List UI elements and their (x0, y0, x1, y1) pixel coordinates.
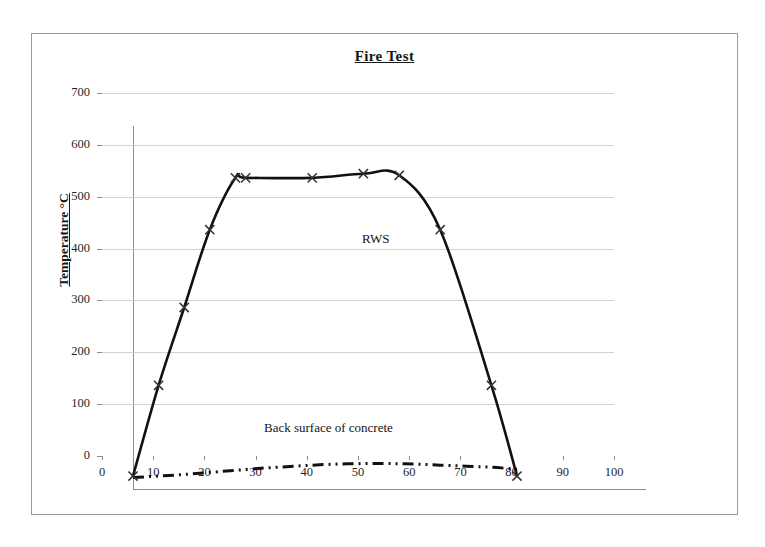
x-tick-label: 50 (338, 465, 378, 480)
x-tick-mark (204, 456, 205, 460)
x-tick-mark (307, 456, 308, 460)
data-point-marker (308, 173, 317, 182)
x-tick-mark (563, 456, 564, 460)
x-tick-label: 40 (287, 465, 327, 480)
x-tick-label: 80 (492, 465, 532, 480)
y-axis-line (133, 126, 134, 490)
y-tick-mark (97, 249, 102, 250)
x-tick-label: 60 (389, 465, 429, 480)
y-tick-mark (97, 145, 102, 146)
series-label-rws: RWS (362, 231, 389, 247)
x-tick-mark (614, 456, 615, 460)
gridline (102, 145, 614, 146)
x-tick-mark (460, 456, 461, 460)
y-tick-label: 100 (46, 397, 90, 410)
y-tick-label: 300 (46, 293, 90, 306)
gridline (102, 249, 614, 250)
series-label-back-surface: Back surface of concrete (264, 420, 393, 436)
y-tick-mark (97, 404, 102, 405)
x-tick-label: 90 (543, 465, 583, 480)
x-tick-label: 100 (594, 465, 634, 480)
y-tick-mark (97, 300, 102, 301)
y-tick-mark (97, 352, 102, 353)
data-point-marker (359, 169, 368, 178)
data-point-marker (395, 171, 404, 180)
chart-frame: Fire Test Temperature °C 700600500400300… (31, 33, 738, 515)
x-tick-mark (512, 456, 513, 460)
x-tick-label: 10 (133, 465, 173, 480)
data-point-marker (154, 381, 163, 390)
y-tick-label: 0 (46, 449, 90, 462)
y-tick-label: 600 (46, 138, 90, 151)
y-tick-label: 500 (46, 190, 90, 203)
x-axis-line (133, 489, 646, 490)
y-tick-label: 400 (46, 242, 90, 255)
x-tick-mark (256, 456, 257, 460)
data-point-marker (205, 225, 214, 234)
x-tick-label: 30 (236, 465, 276, 480)
x-tick-label: 70 (440, 465, 480, 480)
x-tick-mark (102, 456, 103, 460)
x-tick-mark (153, 456, 154, 460)
y-tick-mark (97, 93, 102, 94)
gridline (102, 197, 614, 198)
x-tick-mark (358, 456, 359, 460)
gridline (102, 404, 614, 405)
gridline (102, 300, 614, 301)
y-tick-label: 200 (46, 345, 90, 358)
data-point-marker (231, 173, 240, 182)
x-tick-mark (409, 456, 410, 460)
gridline (102, 352, 614, 353)
data-point-marker (487, 381, 496, 390)
gridline (102, 93, 614, 94)
y-tick-mark (97, 197, 102, 198)
x-tick-label: 0 (82, 465, 122, 480)
data-point-marker (241, 173, 250, 182)
x-tick-label: 20 (184, 465, 224, 480)
y-tick-label: 700 (46, 86, 90, 99)
data-point-marker (180, 303, 189, 312)
chart-title: Fire Test (32, 48, 737, 65)
data-point-marker (436, 225, 445, 234)
